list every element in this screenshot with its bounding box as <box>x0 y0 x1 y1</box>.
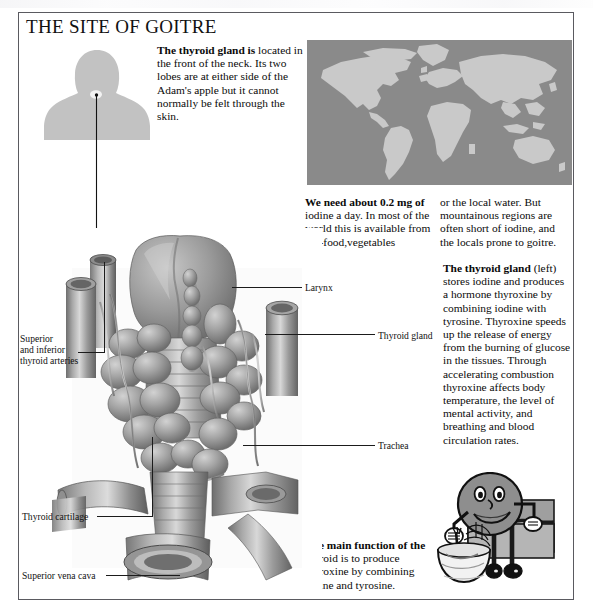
leader-arteries-vertical <box>104 262 105 353</box>
leader-cartilage <box>97 516 153 517</box>
label-trachea: Trachea <box>378 440 409 451</box>
main-function-lead: The main function of the <box>305 539 425 551</box>
label-thyroid-arteries: Superior and inferior thyroid arteries <box>20 333 78 366</box>
leader-arteries <box>78 352 104 353</box>
leader-cartilage-vertical <box>152 437 153 517</box>
world-map <box>307 40 572 185</box>
head-and-shoulders-silhouette <box>42 48 152 140</box>
page-title: THE SITE OF GOITRE <box>26 16 217 38</box>
iodine-body-1: iodine a day. In most of the world this … <box>305 209 430 247</box>
iodine-lead: We need about 0.2 mg of <box>305 196 425 208</box>
iodine-body-2: or the local water. But mountainous regi… <box>440 196 556 248</box>
label-larynx: Larynx <box>305 282 333 293</box>
main-function-paragraph: The main function of the thyroid is to p… <box>305 539 445 592</box>
intro-lead: The thyroid gland is <box>157 44 255 56</box>
label-thyroid-gland: Thyroid gland <box>378 330 433 341</box>
cartoon-character-eating <box>432 472 572 590</box>
label-superior-vena-cava: Superior vena cava <box>22 570 96 581</box>
leader-thyroid-gland <box>265 334 375 335</box>
scan-artifact-strip <box>0 0 593 8</box>
thyroid-function-lead: The thyroid gland <box>443 262 531 274</box>
leader-trachea <box>243 445 375 446</box>
thyroid-function-paragraph: The thyroid gland (left) stores iodine a… <box>443 262 571 447</box>
label-thyroid-cartilage: Thyroid cartilage <box>22 511 88 522</box>
intro-paragraph: The thyroid gland is located in the fron… <box>157 44 305 123</box>
encyclopedia-page: THE SITE OF GOITRE The thyroid gland is … <box>0 0 593 612</box>
leader-superior-vena-cava <box>106 575 180 576</box>
thyroid-goitre-illustration <box>52 228 322 590</box>
thyroid-function-body: (left) stores iodine and produces a horm… <box>443 262 570 446</box>
leader-larynx <box>232 287 302 288</box>
iodine-paragraph-column-2: or the local water. But mountainous regi… <box>440 196 570 249</box>
iodine-paragraph-column-1: We need about 0.2 mg of iodine a day. In… <box>305 196 433 249</box>
